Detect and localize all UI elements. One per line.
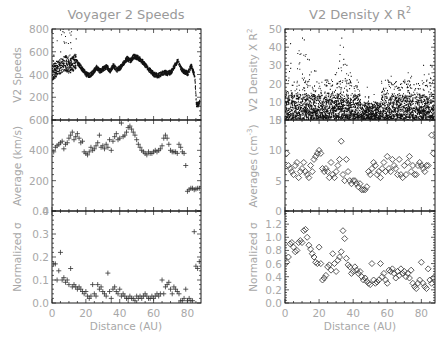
y-tick-label: 0.2: [32, 251, 49, 263]
right-top-ylabel: V2 Density X R2: [246, 29, 259, 112]
y-tick-label: 40: [269, 41, 282, 53]
plot-area: 020040060080002004006000.00.10.20.30.402…: [29, 23, 436, 319]
x-tick-label: 20: [79, 307, 92, 319]
y-tick-label: 200: [29, 91, 49, 103]
x-tick-label: 60: [147, 307, 160, 319]
x-tick-label: 0: [282, 307, 289, 319]
y-tick-label: 400: [29, 144, 49, 156]
left-bottom-ylabel: Normalized σ: [11, 222, 23, 292]
y-tick-label: 0.4: [265, 271, 282, 283]
right-top-frame: [285, 29, 435, 120]
left-middle-ylabel: Average (km/s): [11, 126, 23, 206]
y-tick-label: 1.0: [265, 231, 282, 243]
y-tick-label: 800: [29, 23, 49, 35]
x-tick-label: 60: [381, 307, 394, 319]
left-top-frame: [52, 29, 201, 120]
y-tick-label: 0.2: [265, 284, 282, 296]
y-tick-label: 10: [269, 144, 282, 156]
y-tick-label: 600: [29, 46, 49, 58]
y-tick-label: 50: [269, 23, 282, 35]
y-tick-label: 0.8: [265, 244, 282, 256]
right-bottom-series: [284, 226, 437, 291]
right-middle-panel: 051015: [269, 114, 437, 217]
y-tick-label: 0.0: [265, 297, 282, 309]
left-xlabel: Distance (AU): [90, 320, 162, 332]
y-tick-label: 200: [29, 175, 49, 187]
right-middle-series: [284, 114, 437, 193]
x-tick-label: 40: [346, 307, 359, 319]
x-tick-label: 0: [49, 307, 56, 319]
y-tick-label: 0: [275, 205, 282, 217]
left-chart-title: Voyager 2 Speeds: [67, 7, 184, 22]
left-top-series: [52, 29, 200, 107]
y-tick-label: 0.0: [32, 297, 49, 309]
right-top-panel: 01020304050: [269, 23, 435, 126]
left-bottom-frame: [52, 211, 201, 303]
y-tick-label: 30: [269, 59, 282, 71]
right-xlabel: Distance (AU): [324, 320, 396, 332]
right-top-series: [285, 38, 434, 120]
figure: Voyager 2 Speeds V2 Density X R2 V2 Spee…: [0, 0, 442, 346]
right-bottom-panel: 0.00.20.40.60.81.01.2020406080: [265, 211, 436, 319]
y-tick-label: 10: [269, 96, 282, 108]
left-middle-panel: 0200400600: [29, 114, 202, 217]
y-tick-label: 400: [29, 69, 49, 81]
y-tick-label: 15: [269, 114, 282, 126]
left-bottom-panel: 0.00.10.20.30.4020406080: [32, 205, 202, 319]
y-tick-label: 0.3: [32, 228, 49, 240]
x-tick-label: 20: [312, 307, 325, 319]
x-tick-label: 80: [181, 307, 194, 319]
right-middle-ylabel: Averages (cm-3): [246, 124, 259, 207]
left-middle-series: [51, 121, 202, 194]
y-tick-label: 0.6: [265, 258, 282, 270]
left-top-panel: 0200400600800: [29, 23, 201, 126]
y-tick-label: 20: [269, 78, 282, 90]
left-top-ylabel: V2 Speeds: [11, 47, 23, 103]
y-tick-label: 0.4: [32, 205, 49, 217]
y-tick-label: 1.2: [265, 218, 282, 230]
left-bottom-series: [51, 229, 202, 303]
y-tick-label: 5: [275, 175, 282, 187]
y-tick-label: 600: [29, 114, 49, 126]
right-bottom-frame: [285, 211, 435, 303]
y-tick-label: 0.1: [32, 274, 49, 286]
right-chart-title: V2 Density X R2: [309, 6, 411, 22]
x-tick-label: 80: [415, 307, 428, 319]
right-bottom-ylabel: Normalized σ: [247, 222, 259, 292]
x-tick-label: 40: [113, 307, 126, 319]
